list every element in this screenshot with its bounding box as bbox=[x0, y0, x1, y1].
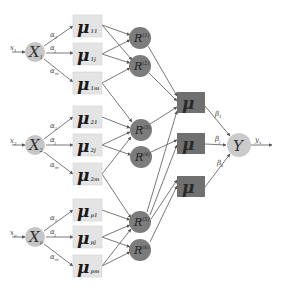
weight-edge bbox=[44, 117, 73, 139]
weight-label: αm bbox=[50, 67, 59, 76]
weight-edge bbox=[44, 26, 73, 46]
rule-edge bbox=[102, 54, 130, 63]
weight-label: α1 bbox=[50, 122, 57, 131]
rule-edge bbox=[102, 145, 131, 155]
rule-edge bbox=[102, 252, 130, 266]
input-group-p: xp Xp α1 αj αm μp1 μpj μpm bbox=[10, 199, 102, 277]
agg-edge bbox=[147, 111, 177, 212]
output-weight-label: βj bbox=[214, 135, 221, 144]
rule-edge bbox=[102, 68, 130, 83]
input-signal-label: xp bbox=[10, 229, 17, 238]
agg-edge bbox=[149, 73, 177, 101]
weight-edge bbox=[44, 210, 73, 231]
weight-edge bbox=[44, 152, 73, 174]
input-group-2: x2 X2 α1 αj αm μ21 μ2j μ2m bbox=[10, 106, 102, 185]
output-layer: β1 βj βk Y yx bbox=[214, 110, 262, 168]
rule-edge bbox=[102, 40, 130, 54]
output-weight-label: βk bbox=[216, 159, 224, 168]
rule-edge bbox=[102, 210, 130, 220]
rule-edge bbox=[102, 83, 132, 122]
rule-layer: R(1) R(2) R(3) R(4) R(5) R(6) bbox=[129, 27, 152, 261]
input-group-1: x1 X1 α1 αj αm μ11 μ1j μ1m bbox=[10, 15, 102, 94]
weight-edge bbox=[44, 244, 73, 266]
agg-edge bbox=[151, 140, 177, 152]
rule-edge bbox=[102, 117, 130, 128]
aggregate-layer: μ μ μ bbox=[177, 92, 205, 197]
input-signal-label: x1 bbox=[10, 44, 17, 53]
weight-label: αj bbox=[50, 44, 57, 53]
output-signal-label: yx bbox=[254, 136, 262, 145]
aggregate-label: μ bbox=[182, 177, 194, 197]
input-signal-label: x2 bbox=[10, 137, 17, 146]
weight-label: αj bbox=[50, 136, 57, 145]
aggregate-label: μ bbox=[182, 134, 194, 154]
agg-edge bbox=[150, 107, 177, 124]
neuro-fuzzy-network-diagram: x1 X1 α1 αj αm μ11 μ1j μ1m x2 X2 α1 αj α… bbox=[0, 0, 284, 292]
weight-label: α1 bbox=[50, 214, 57, 223]
agg-edge bbox=[148, 46, 177, 96]
weight-label: α1 bbox=[50, 31, 57, 40]
weight-label: αj bbox=[50, 228, 57, 237]
rule-edge bbox=[102, 229, 131, 266]
output-weight-edge bbox=[205, 144, 226, 145]
aggregate-label: μ bbox=[182, 93, 194, 113]
output-weight-label: β1 bbox=[214, 110, 222, 119]
rule-edge bbox=[102, 237, 130, 247]
